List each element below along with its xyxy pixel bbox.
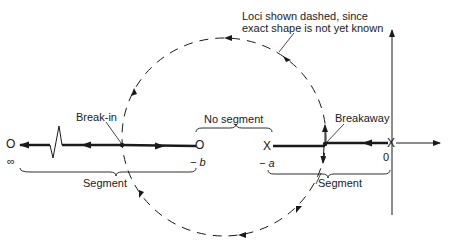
lower-right-arrow-icon [296,206,302,213]
dashed-locus-circle [122,38,326,236]
arrow-left-mid-icon [81,142,91,149]
arrow-to-infinity-icon [19,142,29,149]
break-in-label: Break-in [76,111,117,123]
no-segment-label: No segment [204,113,263,125]
arrow-toward-b-icon [155,143,165,150]
axis-break-zigzag [50,126,62,158]
upper-right-arrow-icon [283,56,291,62]
no-segment-brace [196,124,272,132]
lower-left-arrow-icon [139,190,144,198]
zero-b-symbol: O [195,139,204,151]
zero-b-label: − b [190,156,206,168]
breakaway-point [323,142,327,146]
breakaway-leader [327,124,344,142]
left-segment-brace [20,168,196,176]
breakaway-down-arrow [323,146,324,163]
infinity-label: ∞ [7,155,15,167]
break-in-leader [106,122,121,143]
breakaway-label: Breakaway [335,112,389,124]
pole-a-label: − a [259,157,275,169]
pole-a-symbol: X [263,140,271,152]
annotation-line-2: exact shape is not yet known [242,22,383,34]
origin-label: 0 [383,151,389,163]
annotation-line-1: Loci shown dashed, since [242,10,368,22]
upper-left-arrow-icon [131,88,137,96]
left-segment-label: Segment [83,177,127,189]
top-arrow-icon [224,35,232,41]
right-segment-label: Segment [318,177,362,189]
zero-at-infinity-symbol: O [6,138,15,150]
pole-origin-symbol: X [387,137,395,149]
arrow-toward-breakaway-icon [362,140,372,147]
bottom-arrow-icon [238,232,246,238]
annotation-leader [279,33,294,52]
